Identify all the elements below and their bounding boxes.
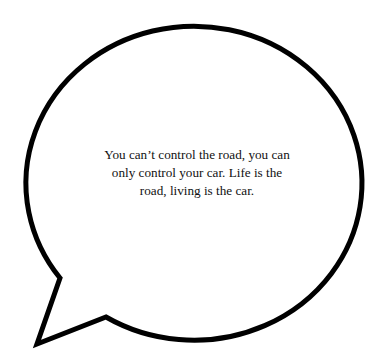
quote-line-3: road, living is the car. [92, 182, 302, 200]
quote-line-1: You can’t control the road, you can [92, 146, 302, 164]
speech-bubble-illustration: You can’t control the road, you can only… [0, 0, 388, 363]
quote-line-2: only control your car. Life is the [92, 164, 302, 182]
quote-text: You can’t control the road, you can only… [92, 146, 302, 200]
